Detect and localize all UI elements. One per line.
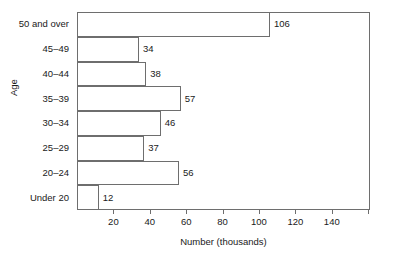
x-axis-tick-label: 120 [287,217,303,227]
bar-row: 57 [77,86,370,111]
bar-row: 56 [77,161,370,186]
bar [77,161,179,186]
bar [77,136,144,161]
x-axis-tick-label: 100 [251,217,267,227]
bar-value-label: 46 [161,119,176,129]
bar [77,12,270,37]
x-axis-tick-mark [295,210,296,214]
bar [77,86,181,111]
x-axis-tick-mark [332,210,333,214]
y-axis-title: Age [8,79,19,96]
x-axis-tick-mark [186,210,187,214]
x-axis-tick-label: 20 [108,217,119,227]
y-axis-category-labels: Under 2020–2425–2930–3435–3940–4445–4950… [0,12,74,210]
bar-value-label: 38 [146,69,161,79]
bar-value-label: 12 [99,193,114,203]
x-axis-tick-label: 140 [324,217,340,227]
bars-layer: 12563746573834106 [77,12,370,210]
bar [77,62,146,87]
bar-chart: Under 2020–2425–2930–3435–3940–4445–4950… [0,0,393,263]
y-axis-category-label: 35–39 [43,94,69,104]
bar [77,37,139,62]
bar-row: 46 [77,111,370,136]
x-axis-tick-mark [113,210,114,214]
bar-row: 37 [77,136,370,161]
y-axis-category-label: 25–29 [43,143,69,153]
x-axis-tick-label: 40 [144,217,155,227]
bar-value-label: 37 [144,143,159,153]
y-axis-category-label: Under 20 [30,193,69,203]
x-axis-tick-mark [368,210,369,214]
y-axis-category-label: 45–49 [43,44,69,54]
bar-value-label: 57 [181,94,196,104]
bar-row: 38 [77,62,370,87]
x-axis-tick-label: 60 [181,217,192,227]
y-axis-category-label: 40–44 [43,69,69,79]
bar-value-label: 34 [139,44,154,54]
bar [77,111,161,136]
x-axis-tick-label: 80 [217,217,228,227]
bar-row: 34 [77,37,370,62]
x-axis-tick-mark [259,210,260,214]
bar-value-label: 106 [270,20,290,30]
bar-value-label: 56 [179,168,194,178]
x-axis-ticks: 20406080100120140 [77,210,370,236]
x-axis-tick-mark [223,210,224,214]
bar-row: 106 [77,12,370,37]
y-axis-category-label: 30–34 [43,119,69,129]
x-axis-tick-mark [150,210,151,214]
y-axis-category-label: 50 and over [19,20,69,30]
bar-row: 12 [77,185,370,210]
x-axis-title: Number (thousands) [77,236,370,247]
y-axis-category-label: 20–24 [43,168,69,178]
bar [77,185,99,210]
